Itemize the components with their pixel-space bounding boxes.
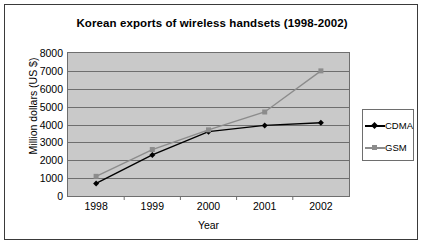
x-axis-tick-labels: 19981999200020012002 [67, 201, 350, 217]
x-tick-label: 1999 [141, 201, 164, 212]
legend-item-cdma[interactable]: CDMA [363, 116, 413, 136]
y-tick-label: 6000 [25, 84, 63, 95]
y-tick-label: 2000 [25, 155, 63, 166]
data-point-cdma [149, 152, 155, 158]
data-point-cdma [93, 180, 99, 186]
chart-title: Korean exports of wireless handsets (199… [5, 17, 419, 29]
legend-swatch-gsm [365, 142, 385, 154]
series-line-gsm [96, 71, 321, 176]
x-tick-label: 1998 [84, 201, 107, 212]
legend-label: CDMA [385, 121, 413, 131]
x-tick-label: 2000 [197, 201, 220, 212]
y-tick-label: 1000 [25, 173, 63, 184]
y-tick-label: 3000 [25, 137, 63, 148]
data-point-gsm [150, 147, 155, 152]
legend-item-gsm[interactable]: GSM [363, 138, 413, 158]
plot-area [67, 52, 350, 197]
legend-swatch-cdma [365, 120, 385, 132]
x-tick-label: 2001 [253, 201, 276, 212]
legend-diamond-marker-icon [371, 122, 378, 129]
x-tick-label: 2002 [309, 201, 332, 212]
y-tick-label: 4000 [25, 119, 63, 130]
y-tick-label: 5000 [25, 101, 63, 112]
chart-frame: Korean exports of wireless handsets (199… [4, 4, 418, 240]
x-axis-title: Year [67, 219, 350, 231]
data-point-gsm [318, 68, 323, 73]
y-tick-label: 7000 [25, 66, 63, 77]
legend-square-marker-icon [372, 145, 377, 150]
series-layer [68, 53, 349, 196]
y-tick-label: 8000 [25, 48, 63, 59]
y-tick-label: 0 [25, 191, 63, 202]
data-point-cdma [262, 122, 268, 128]
y-axis-tick-labels: 800070006000500040003000200010000 [25, 52, 63, 197]
data-point-gsm [94, 174, 99, 179]
data-point-gsm [262, 109, 267, 114]
data-point-gsm [206, 127, 211, 132]
data-point-cdma [318, 120, 324, 126]
legend-label: GSM [385, 143, 407, 153]
chart-legend: CDMAGSM [362, 109, 414, 161]
